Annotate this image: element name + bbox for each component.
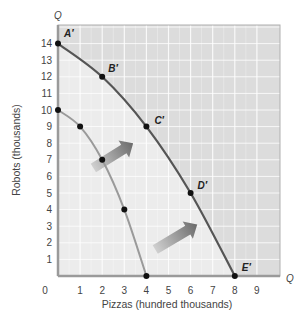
y-tick-label: 9 xyxy=(46,121,52,132)
x-tick-label: 9 xyxy=(254,285,260,296)
data-point xyxy=(99,74,105,80)
y-tick-label: 3 xyxy=(46,221,52,232)
x-tick-label: 7 xyxy=(210,285,216,296)
data-point xyxy=(121,207,127,213)
y-tick-label: 7 xyxy=(46,154,52,165)
x-tick-label: 8 xyxy=(232,285,238,296)
y-tick-label: 4 xyxy=(46,204,52,215)
x-tick-label: 6 xyxy=(188,285,194,296)
point-label: B′ xyxy=(108,63,118,74)
y-tick-label: 6 xyxy=(46,171,52,182)
data-point xyxy=(143,124,149,130)
point-label: E′ xyxy=(242,262,252,273)
data-point xyxy=(55,107,61,113)
y-tick-label: 8 xyxy=(46,138,52,149)
x-tick-label: 3 xyxy=(122,285,128,296)
y-tick-label: 13 xyxy=(41,55,53,66)
point-label: C′ xyxy=(154,115,164,126)
point-label: D′ xyxy=(198,180,208,191)
x-tick-label: 1 xyxy=(77,285,83,296)
data-point xyxy=(55,41,61,47)
y-tick-label: 2 xyxy=(46,237,52,248)
x-tick-label: 4 xyxy=(144,285,150,296)
y-tick-label: 14 xyxy=(41,38,53,49)
data-point xyxy=(188,190,194,196)
origin-label: 0 xyxy=(42,285,48,296)
x-axis-title: Pizzas (hundred thousands) xyxy=(102,298,233,310)
point-label: A′ xyxy=(63,28,74,39)
data-point xyxy=(143,273,149,279)
data-point xyxy=(77,124,83,130)
y-tick-label: 12 xyxy=(41,71,53,82)
y-axis-q-label: Q xyxy=(54,10,62,21)
y-tick-label: 10 xyxy=(41,105,53,116)
data-point xyxy=(232,273,238,279)
data-point xyxy=(99,157,105,163)
x-tick-label: 5 xyxy=(166,285,172,296)
x-axis-q-label: Q xyxy=(286,273,294,284)
y-tick-label: 1 xyxy=(46,254,52,265)
y-tick-label: 11 xyxy=(42,88,53,99)
y-tick-label: 5 xyxy=(46,188,52,199)
x-tick-label: 2 xyxy=(99,285,105,296)
ppc-chart: 1234567891234567891011121314 A′B′C′D′E′ … xyxy=(0,0,307,325)
y-axis-title: Robots (thousands) xyxy=(10,104,22,196)
